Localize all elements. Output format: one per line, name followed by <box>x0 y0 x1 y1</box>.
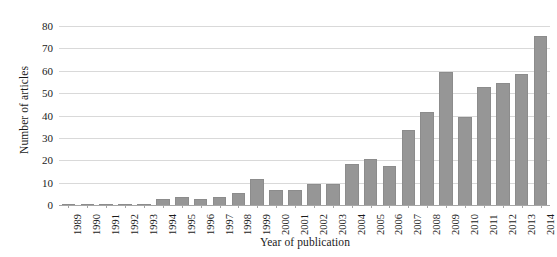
x-tick-mark <box>314 205 315 208</box>
y-tick-label: 0 <box>17 200 53 211</box>
plot-area <box>59 27 550 206</box>
x-tick-mark <box>125 205 126 208</box>
bar <box>534 36 548 206</box>
bar <box>326 184 340 206</box>
x-tick-mark <box>371 205 372 208</box>
y-tick-label: 40 <box>17 111 53 122</box>
bar-chart: Number of articles 01020304050607080 198… <box>0 0 557 257</box>
x-tick-mark <box>446 205 447 208</box>
bar <box>250 179 264 206</box>
x-tick-mark <box>541 205 542 208</box>
x-tick-label: 1992 <box>129 214 140 235</box>
x-tick-label: 2011 <box>488 214 499 235</box>
x-tick-mark <box>276 205 277 208</box>
x-tick-mark <box>182 205 183 208</box>
x-tick-label: 2014 <box>545 214 556 235</box>
x-tick-label: 2010 <box>469 214 480 235</box>
bar <box>515 74 529 206</box>
x-tick-label: 1995 <box>186 214 197 235</box>
x-tick-label: 1993 <box>148 214 159 235</box>
bar <box>269 190 283 206</box>
gridline <box>59 26 550 27</box>
x-tick-label: 2009 <box>450 214 461 235</box>
x-tick-mark <box>106 205 107 208</box>
x-tick-mark <box>408 205 409 208</box>
y-tick-label: 60 <box>17 66 53 77</box>
x-tick-mark <box>522 205 523 208</box>
x-tick-mark <box>352 205 353 208</box>
x-tick-mark <box>220 205 221 208</box>
x-tick-mark <box>389 205 390 208</box>
x-tick-label: 1998 <box>242 214 253 235</box>
x-tick-mark <box>427 205 428 208</box>
x-tick-label: 2000 <box>280 214 291 235</box>
x-tick-mark <box>295 205 296 208</box>
bar <box>496 83 510 206</box>
x-tick-label: 1991 <box>110 214 121 235</box>
bar <box>477 87 491 206</box>
x-tick-label: 2006 <box>393 214 404 235</box>
y-tick-label: 50 <box>17 88 53 99</box>
x-tick-label: 1994 <box>167 214 178 235</box>
x-tick-mark <box>465 205 466 208</box>
x-axis-title: Year of publication <box>60 236 550 248</box>
x-tick-mark <box>163 205 164 208</box>
x-tick-label: 2001 <box>299 214 310 235</box>
x-tick-mark <box>503 205 504 208</box>
bar <box>383 166 397 206</box>
x-tick-mark <box>87 205 88 208</box>
x-tick-mark <box>68 205 69 208</box>
y-tick-label: 20 <box>17 155 53 166</box>
y-tick-label: 70 <box>17 43 53 54</box>
bar <box>402 130 416 206</box>
bar <box>307 184 321 206</box>
x-tick-mark <box>333 205 334 208</box>
bar <box>345 164 359 207</box>
bar <box>458 117 472 207</box>
x-tick-label: 1999 <box>261 214 272 235</box>
x-tick-label: 2007 <box>412 214 423 235</box>
bar <box>439 72 453 206</box>
x-tick-mark <box>238 205 239 208</box>
x-tick-mark <box>257 205 258 208</box>
x-tick-label: 2005 <box>375 214 386 235</box>
y-axis-tick-labels: 01020304050607080 <box>15 27 53 206</box>
bar <box>288 190 302 206</box>
x-tick-label: 1996 <box>205 214 216 235</box>
x-tick-label: 2012 <box>507 214 518 235</box>
y-tick-label: 10 <box>17 178 53 189</box>
x-tick-mark <box>484 205 485 208</box>
x-tick-label: 2008 <box>431 214 442 235</box>
x-axis-tick-labels: 1989199019911992199319941995199619971998… <box>59 208 550 236</box>
x-tick-label: 1989 <box>72 214 83 235</box>
x-tick-label: 2003 <box>337 214 348 235</box>
x-tick-label: 1997 <box>224 214 235 235</box>
bar <box>364 159 378 206</box>
y-tick-label: 80 <box>17 21 53 32</box>
x-tick-mark <box>144 205 145 208</box>
bar <box>232 193 246 206</box>
gridline <box>59 48 550 49</box>
x-tick-mark <box>201 205 202 208</box>
bar <box>420 112 434 206</box>
x-tick-label: 2004 <box>356 214 367 235</box>
x-tick-label: 2002 <box>318 214 329 235</box>
x-tick-label: 1990 <box>91 214 102 235</box>
x-axis-line <box>59 205 550 206</box>
y-tick-label: 30 <box>17 133 53 144</box>
gridline <box>59 71 550 72</box>
x-tick-label: 2013 <box>526 214 537 235</box>
